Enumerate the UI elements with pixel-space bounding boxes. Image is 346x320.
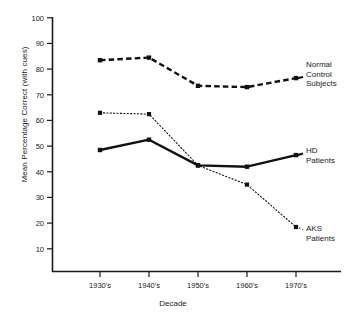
y-axis-title: Mean Percentage Correct (with cues)	[20, 15, 29, 215]
series-label-line-2: Patients	[306, 234, 335, 244]
series-label-hd-patients: HD Patients	[306, 146, 335, 165]
series-markers-hd-patients	[98, 138, 298, 169]
plot-area	[0, 0, 346, 320]
series-label-aks-patients: AKS Patients	[306, 224, 335, 243]
xtick-label-1950s: 1950's	[175, 281, 221, 290]
ytick-label-10: 10	[20, 245, 44, 254]
series-label-line-3: Subjects	[306, 79, 337, 89]
x-axis-title: Decade	[0, 299, 346, 308]
series-line-hd-patients	[100, 140, 296, 167]
xtick-label-1930s: 1930's	[77, 281, 123, 290]
series-label-normal-control-subjects: Normal Control Subjects	[306, 60, 337, 89]
series-label-line-1: Normal	[306, 60, 337, 70]
xtick-label-1940s: 1940's	[126, 281, 172, 290]
series-markers-aks-patients	[98, 111, 298, 229]
series-label-line-2: Control	[306, 70, 337, 80]
y-tick-marks	[47, 18, 52, 249]
series-label-line-2: Patients	[306, 156, 335, 166]
series-label-line-1: AKS	[306, 224, 335, 234]
series-label-line-1: HD	[306, 146, 335, 156]
line-chart-figure: 100 90 80 70 60 50 40 30 20 10 1930's 19…	[0, 0, 346, 320]
series-line-normal-control-subjects	[100, 58, 296, 88]
series-line-aks-patients	[100, 113, 296, 227]
xtick-label-1960s: 1960's	[224, 281, 270, 290]
xtick-label-1970s: 1970's	[273, 281, 319, 290]
ytick-label-20: 20	[20, 219, 44, 228]
